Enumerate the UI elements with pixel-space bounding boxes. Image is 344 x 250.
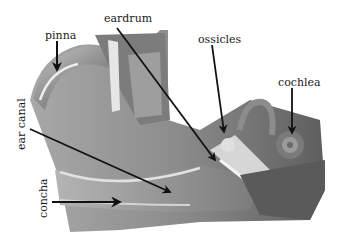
- ear-anatomy-diagram: pinna eardrum ossicles cochlea ear canal…: [0, 0, 344, 250]
- label-pinna: pinna: [45, 30, 76, 41]
- label-eardrum: eardrum: [104, 13, 152, 24]
- label-concha: concha: [38, 178, 49, 218]
- arrow-ossicles: [212, 45, 224, 132]
- label-cochlea: cochlea: [278, 77, 321, 88]
- label-ossicles: ossicles: [198, 34, 241, 45]
- label-ear-canal: ear canal: [16, 98, 27, 150]
